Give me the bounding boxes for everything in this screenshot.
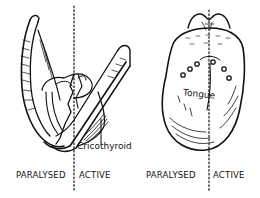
tongue-diagram [162, 10, 244, 192]
larynx-paralysed-label: PARALYSED [16, 171, 66, 180]
arytenoid [42, 74, 92, 98]
tongue-paralysed-label: PARALYSED [146, 171, 196, 180]
larynx-diagram [21, 6, 130, 192]
cricothyroid-label: Cricothyroid [77, 142, 132, 151]
tongue-active-label: ACTIVE [213, 171, 245, 180]
larynx-active-label: ACTIVE [79, 171, 111, 180]
papillae [181, 60, 231, 80]
anatomical-figure [0, 0, 260, 198]
